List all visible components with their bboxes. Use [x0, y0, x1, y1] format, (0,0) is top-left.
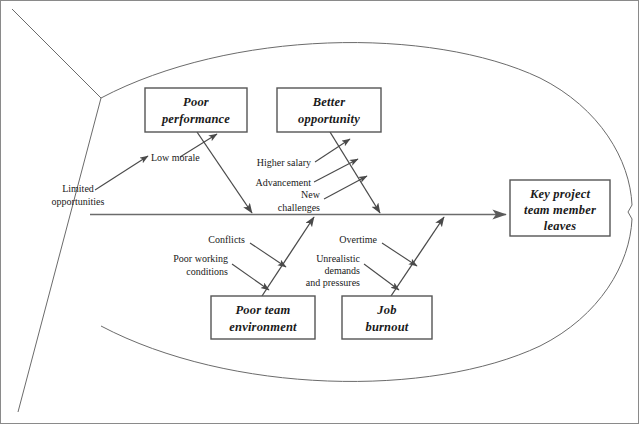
cause-label-overtime: Overtime: [339, 234, 377, 245]
category-label-job-burnout-line1: Job: [376, 303, 396, 317]
category-label-poor-team-environment-line1: Poor team: [236, 303, 291, 317]
svg-text:New: New: [301, 189, 321, 200]
cause-label-conflicts: Conflicts: [208, 234, 245, 245]
svg-text:Low morale: Low morale: [151, 152, 200, 163]
svg-text:Unrealistic: Unrealistic: [316, 253, 360, 264]
cause-arrow-higher-salary: [315, 139, 350, 162]
effect-label-line2: team member: [524, 203, 596, 217]
cause-label-higher-salary: Higher salary: [257, 157, 311, 168]
category-box-job-burnout[interactable]: Job burnout: [342, 296, 432, 339]
category-box-poor-performance[interactable]: Poor performance: [145, 88, 247, 132]
svg-text:challenges: challenges: [278, 202, 320, 213]
svg-text:Advancement: Advancement: [255, 177, 311, 188]
category-label-better-opportunity-line2: opportunity: [298, 112, 360, 126]
effect-label-line3: leaves: [544, 219, 576, 233]
svg-text:Overtime: Overtime: [339, 234, 377, 245]
fish-tail-outline: [12, 9, 101, 412]
cause-arrow-overtime: [382, 243, 417, 266]
effect-box[interactable]: Key project team member leaves: [510, 180, 610, 236]
cause-label-low-morale: Low morale: [151, 152, 200, 163]
svg-text:Conflicts: Conflicts: [208, 234, 245, 245]
cause-arrow-limited-opportunities: [95, 156, 148, 190]
bone-better-opportunity: [330, 132, 380, 213]
category-label-poor-team-environment-line2: environment: [229, 320, 297, 334]
cause-label-new-challenges: New challenges: [278, 189, 321, 213]
cause-arrow-advancement: [314, 159, 358, 182]
category-box-poor-team-environment[interactable]: Poor team environment: [211, 296, 315, 339]
svg-text:Higher salary: Higher salary: [257, 157, 311, 168]
cause-arrow-unrealistic-demands: [364, 264, 399, 290]
svg-text:Poor working: Poor working: [173, 253, 228, 264]
cause-arrow-new-challenges: [324, 176, 367, 199]
cause-label-poor-working-conditions: Poor working conditions: [173, 253, 228, 277]
cause-arrow-poor-working-conditions: [232, 264, 269, 290]
fishbone-diagram: Poor performance Better opportunity Poor…: [0, 0, 639, 424]
category-label-job-burnout-line2: burnout: [365, 320, 408, 334]
svg-text:opportunities: opportunities: [52, 196, 105, 207]
fishbone-diagram-canvas: Poor performance Better opportunity Poor…: [0, 0, 639, 424]
category-label-poor-performance-line1: Poor: [183, 95, 209, 109]
cause-label-advancement: Advancement: [255, 177, 311, 188]
svg-text:demands: demands: [324, 265, 360, 276]
category-box-better-opportunity[interactable]: Better opportunity: [277, 88, 381, 132]
cause-label-unrealistic-demands: Unrealistic demands and pressures: [306, 253, 361, 288]
bone-job-burnout: [391, 217, 444, 296]
category-label-poor-performance-line2: performance: [161, 112, 230, 126]
svg-text:conditions: conditions: [186, 266, 228, 277]
cause-arrow-conflicts: [250, 243, 286, 267]
cause-label-limited-opportunities: Limited opportunities: [52, 183, 105, 207]
bone-poor-performance: [197, 132, 252, 213]
svg-text:and pressures: and pressures: [306, 277, 360, 288]
category-label-better-opportunity-line1: Better: [312, 95, 345, 109]
svg-text:Limited: Limited: [62, 183, 94, 194]
effect-label-line1: Key project: [529, 187, 590, 201]
